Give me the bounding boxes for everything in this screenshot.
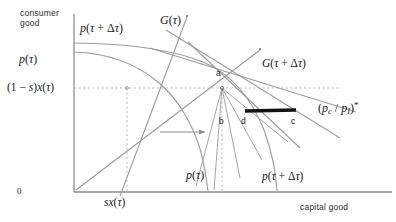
bold-segment-group <box>245 110 296 111</box>
curve-label-g-tau-plus-delta-tau: G(τ + Δτ) <box>262 57 306 70</box>
g-tau-endpoint-dot <box>186 15 188 17</box>
shift-arrow-head <box>199 129 205 134</box>
point-label-a: a <box>216 69 221 79</box>
curve-label-p-tau-plus-delta-tau-top: p(τ + Δτ) <box>80 22 123 36</box>
x-axis-label: capital good <box>300 203 348 213</box>
x-tick-label-sx-tau: sx(τ) <box>104 196 125 209</box>
shift-arrow-group <box>160 129 205 134</box>
curve-label-g-tau: G(τ) <box>160 14 181 28</box>
fan-line-3 <box>222 88 240 178</box>
fan-line-5 <box>222 88 288 142</box>
curve-label-p-tau-plus-delta-tau-bottom: p(τ + Δτ) <box>262 170 303 183</box>
curve-label-price-ratio-star: (pc / pI)* <box>318 100 359 117</box>
point-label-d: d <box>241 117 246 127</box>
curve-label-p-tau-bottom: p(τ) <box>186 169 204 183</box>
g-tau-delta-endpoint-dot <box>259 48 261 50</box>
point-label-b: b <box>219 117 224 127</box>
y-tick-label-p-tau: p(τ) <box>19 53 37 67</box>
y-axis-label: consumergood <box>20 9 59 29</box>
bold-price-segment-dc <box>245 110 296 111</box>
price-lines-group <box>150 30 356 148</box>
figure-container: consumergood capital good 0 p(τ) (1 − s)… <box>0 0 396 222</box>
g-tau-ray-group <box>120 15 188 196</box>
g-tau-delta-ray-group <box>76 48 261 190</box>
line-g-tau <box>120 17 187 196</box>
point-label-c: c <box>291 117 295 127</box>
origin-label: 0 <box>17 186 22 196</box>
y-tick-label-one-minus-s-x-tau: (1 − s)x(τ) <box>7 81 54 94</box>
